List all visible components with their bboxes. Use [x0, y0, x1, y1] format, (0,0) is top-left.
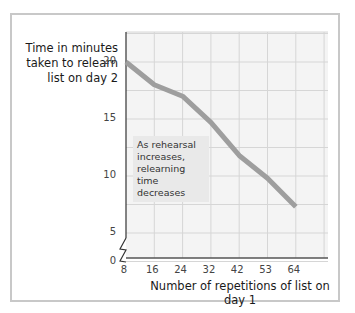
- y-tick-label: 20: [96, 55, 116, 66]
- y-tick-label: 10: [96, 169, 116, 180]
- x-tick-label: 32: [197, 264, 221, 275]
- x-tick-label: 42: [225, 264, 249, 275]
- chart-annotation: As rehearsal increases, relearning time …: [133, 136, 209, 202]
- x-tick-label: 53: [254, 264, 278, 275]
- x-tick-label: 64: [282, 264, 306, 275]
- x-tick-label: 16: [140, 264, 164, 275]
- x-axis-label: Number of repetitions of list on day 1: [140, 279, 340, 307]
- y-tick-label: 15: [96, 112, 116, 123]
- x-tick-label: 24: [169, 264, 193, 275]
- y-tick-label: 5: [96, 226, 116, 237]
- y-tick-label: 0: [96, 255, 116, 266]
- axis-break-icon: [120, 238, 126, 262]
